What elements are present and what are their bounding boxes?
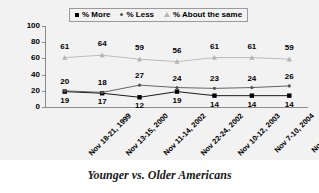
dot-marker: [175, 86, 178, 89]
legend-item-less: % Less: [120, 10, 154, 19]
y-tick-label: 20: [31, 87, 40, 95]
square-marker: [175, 89, 179, 93]
chart-plot-area: % More % Less % About the same 020406080…: [0, 0, 319, 160]
data-point-label: 56: [173, 47, 182, 55]
data-point-label: 59: [135, 44, 144, 52]
legend-label-about-the-same: % About the same: [173, 10, 242, 19]
data-point-label: 59: [285, 44, 294, 52]
y-tick-label: 80: [31, 38, 40, 46]
data-point-label: 26: [285, 73, 294, 81]
legend-item-about-the-same: % About the same: [164, 10, 242, 19]
y-tick-mark: [42, 107, 46, 108]
data-point-label: 24: [173, 75, 182, 83]
dot-marker: [63, 89, 66, 92]
square-marker: [250, 93, 254, 97]
data-point-label: 64: [98, 40, 107, 48]
dot-marker: [101, 91, 104, 94]
triangle-marker-icon: [164, 12, 170, 17]
chart-legend: % More % Less % About the same: [69, 8, 248, 22]
data-point-label: 61: [247, 43, 256, 51]
square-marker: [212, 93, 216, 97]
data-point-label: 18: [98, 79, 107, 87]
x-axis-line: [45, 107, 308, 108]
data-point-label: 17: [98, 98, 107, 106]
dot-marker: [213, 87, 216, 90]
data-point-label: 20: [60, 78, 69, 86]
data-point-label: 19: [60, 97, 69, 105]
data-point-label: 27: [135, 72, 144, 80]
dot-marker-icon: [120, 13, 123, 16]
square-marker-icon: [75, 13, 79, 17]
figure-caption: Younger vs. Older Americans: [0, 168, 319, 183]
data-point-label: 14: [210, 101, 219, 109]
dot-marker: [138, 84, 141, 87]
data-point-label: 61: [210, 43, 219, 51]
data-point-label: 23: [210, 75, 219, 83]
chart-screenshot: % More % Less % About the same 020406080…: [0, 0, 319, 193]
legend-label-less: % Less: [126, 10, 154, 19]
data-point-label: 14: [247, 101, 256, 109]
data-point-label: 19: [173, 97, 182, 105]
y-tick-label: 40: [31, 71, 40, 79]
data-point-label: 14: [285, 101, 294, 109]
square-marker: [287, 93, 291, 97]
y-tick-label: 60: [31, 54, 40, 62]
dot-marker: [250, 86, 253, 89]
square-marker: [137, 95, 141, 99]
data-point-label: 24: [247, 75, 256, 83]
y-tick-label: 0: [36, 103, 40, 111]
data-point-label: 12: [135, 102, 144, 110]
plot-body: 020406080100 191712191414142018272423242…: [46, 26, 308, 107]
data-point-label: 61: [60, 43, 69, 51]
y-tick-label: 100: [27, 22, 40, 30]
legend-item-more: % More: [75, 10, 110, 19]
dot-marker: [288, 84, 291, 87]
legend-label-more: % More: [82, 10, 110, 19]
